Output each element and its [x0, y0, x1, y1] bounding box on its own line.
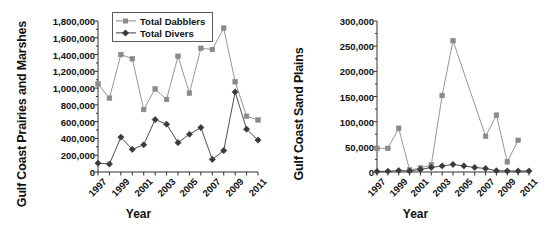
data-point-marker — [119, 52, 124, 57]
data-point-marker — [164, 97, 169, 102]
data-point-marker — [186, 131, 192, 137]
data-point-marker — [396, 167, 402, 173]
data-point-marker — [396, 126, 401, 131]
data-point-marker — [106, 161, 112, 167]
data-point-marker — [153, 87, 158, 92]
data-point-marker — [141, 107, 146, 112]
data-point-marker — [385, 168, 391, 174]
data-point-marker — [482, 165, 488, 171]
data-point-marker — [152, 116, 158, 122]
legend-label-total-dabblers: Total Dabblers — [140, 16, 205, 27]
data-point-marker — [505, 160, 510, 165]
figure-two-panel-waterfowl-chart: Gulf Coast Prairies and Marshes 0200,000… — [0, 0, 554, 228]
data-point-marker — [504, 168, 510, 174]
data-point-marker — [187, 91, 192, 96]
legend-marker-divers-icon — [116, 28, 136, 38]
x-axis-title-left: Year — [0, 207, 277, 221]
data-point-marker — [96, 82, 101, 87]
legend-marker-dabblers-icon — [116, 16, 136, 26]
chart-legend: Total Dabblers Total Divers — [112, 12, 213, 42]
data-point-marker — [440, 93, 445, 98]
x-axis-title-right: Year — [277, 207, 554, 221]
series-line-total-dabblers — [377, 41, 518, 170]
data-point-marker — [472, 164, 478, 170]
data-point-marker — [176, 54, 181, 59]
data-point-marker — [107, 96, 112, 101]
data-point-marker — [483, 134, 488, 139]
data-point-marker — [375, 146, 380, 151]
data-point-marker — [439, 163, 445, 169]
data-point-marker — [199, 46, 204, 51]
data-point-marker — [175, 140, 181, 146]
data-point-marker — [461, 163, 467, 169]
data-point-marker — [494, 113, 499, 118]
legend-label-total-divers: Total Divers — [140, 28, 194, 39]
data-point-marker — [163, 121, 169, 127]
panel-gulf-coast-sand-plains: Gulf Coast Sand Plains 050,000100,000150… — [277, 0, 554, 228]
data-point-marker — [130, 56, 135, 61]
data-point-marker — [233, 80, 238, 85]
data-point-marker — [244, 114, 249, 119]
data-point-marker — [374, 168, 380, 174]
data-point-marker — [451, 38, 456, 43]
data-point-marker — [515, 168, 521, 174]
data-point-marker — [450, 161, 456, 167]
data-point-marker — [210, 47, 215, 52]
data-point-marker — [198, 124, 204, 130]
legend-entry-total-divers: Total Divers — [116, 27, 208, 39]
legend-entry-total-dabblers: Total Dabblers — [116, 15, 208, 27]
series-line-total-divers — [98, 92, 258, 164]
data-point-marker — [95, 160, 101, 166]
panel-gulf-coast-prairies-and-marshes: Gulf Coast Prairies and Marshes 0200,000… — [0, 0, 277, 228]
data-point-marker — [141, 142, 147, 148]
data-point-marker — [386, 146, 391, 151]
data-point-marker — [221, 26, 226, 31]
data-point-marker — [256, 118, 261, 123]
data-point-marker — [493, 168, 499, 174]
data-point-marker — [516, 138, 521, 143]
data-point-marker — [526, 168, 532, 174]
